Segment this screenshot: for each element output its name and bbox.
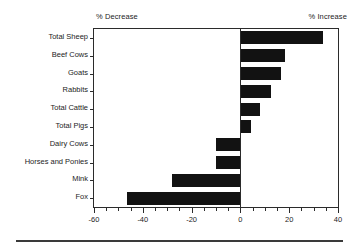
x-axis-minor-tick	[204, 208, 205, 211]
x-axis-minor-tick	[253, 208, 254, 211]
plot-area	[93, 28, 339, 208]
bar-row	[94, 154, 338, 172]
x-axis: -60-40-2002040	[93, 208, 339, 232]
bar-fox	[127, 192, 240, 205]
x-axis-major-tick	[143, 208, 144, 213]
bar-row	[94, 136, 338, 154]
x-axis-minor-tick	[265, 208, 266, 211]
y-axis-tick	[90, 145, 94, 146]
category-label-total-sheep: Total Sheep	[0, 32, 88, 41]
x-axis-minor-tick	[228, 208, 229, 211]
x-axis-minor-tick	[167, 208, 168, 211]
y-axis-tick	[90, 127, 94, 128]
x-axis-minor-tick	[179, 208, 180, 211]
y-axis-tick	[90, 74, 94, 75]
category-label-horses-and-ponies: Horses and Ponies	[0, 157, 88, 166]
bar-total-cattle	[240, 103, 260, 116]
bar-row	[94, 47, 338, 65]
category-label-rabbits: Rabbits	[0, 85, 88, 94]
category-label-goats: Goats	[0, 68, 88, 77]
x-axis-minor-tick	[118, 208, 119, 211]
y-axis-tick	[90, 180, 94, 181]
x-axis-label-neg60: -60	[89, 215, 100, 224]
x-axis-major-tick	[240, 208, 241, 213]
zero-baseline	[240, 29, 241, 207]
x-axis-minor-tick	[106, 208, 107, 211]
x-axis-major-tick	[289, 208, 290, 213]
y-axis-tick	[90, 56, 94, 57]
x-axis-label-0: 0	[238, 215, 242, 224]
category-axis-labels: Total SheepBeef CowsGoatsRabbitsTotal Ca…	[0, 28, 88, 208]
x-axis-major-tick	[94, 208, 95, 213]
x-axis-label-neg20: -20	[186, 215, 197, 224]
bar-row	[94, 100, 338, 118]
x-axis-minor-tick	[301, 208, 302, 211]
bar-goats	[240, 67, 281, 80]
x-axis-major-tick	[192, 208, 193, 213]
x-axis-minor-tick	[216, 208, 217, 211]
category-label-beef-cows: Beef Cows	[0, 50, 88, 59]
bar-beef-cows	[240, 49, 285, 62]
x-axis-minor-tick	[314, 208, 315, 211]
x-axis-label-40: 40	[334, 215, 342, 224]
bottom-rule-divider	[16, 240, 343, 242]
y-axis-tick	[90, 91, 94, 92]
x-axis-label-neg40: -40	[137, 215, 148, 224]
bar-row	[94, 171, 338, 189]
category-label-mink: Mink	[0, 174, 88, 183]
bar-horses-and-ponies	[216, 156, 241, 169]
bar-row	[94, 65, 338, 83]
axis-caption-decrease: % Decrease	[96, 12, 138, 21]
bar-dairy-cows	[216, 138, 241, 151]
bar-row	[94, 82, 338, 100]
bar-mink	[172, 174, 240, 187]
bar-total-pigs	[240, 120, 251, 133]
y-axis-tick	[90, 109, 94, 110]
category-label-total-pigs: Total Pigs	[0, 121, 88, 130]
y-axis-tick	[90, 198, 94, 199]
bar-total-sheep	[240, 31, 322, 44]
x-axis-minor-tick	[131, 208, 132, 211]
x-axis-minor-tick	[155, 208, 156, 211]
y-axis-tick	[90, 38, 94, 39]
category-label-dairy-cows: Dairy Cows	[0, 139, 88, 148]
x-axis-minor-tick	[326, 208, 327, 211]
bar-chart-figure: % Decrease % Increase Total SheepBeef Co…	[0, 0, 359, 252]
bar-row	[94, 189, 338, 207]
x-axis-label-20: 20	[285, 215, 293, 224]
bar-row	[94, 29, 338, 47]
x-axis-major-tick	[338, 208, 339, 213]
x-axis-minor-tick	[277, 208, 278, 211]
bar-row	[94, 118, 338, 136]
category-label-fox: Fox	[0, 192, 88, 201]
bar-rabbits	[240, 85, 271, 98]
bars-layer	[94, 29, 338, 207]
y-axis-tick	[90, 163, 94, 164]
axis-caption-increase: % Increase	[308, 12, 347, 21]
category-label-total-cattle: Total Cattle	[0, 103, 88, 112]
